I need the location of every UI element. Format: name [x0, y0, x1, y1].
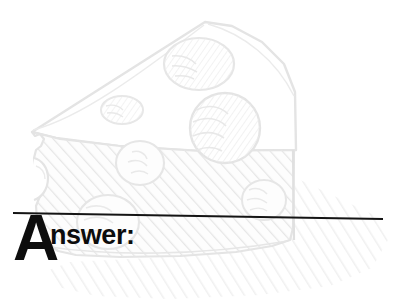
cheese-hole [164, 38, 234, 90]
cheese-hole [116, 141, 164, 185]
cheese-hole [190, 93, 260, 163]
cheese-top-face [32, 22, 296, 151]
answer-page: A nswer: [0, 0, 402, 301]
answer-heading: A nswer: [13, 210, 243, 270]
cheese-hole [34, 158, 48, 200]
cheese-hole [101, 96, 143, 124]
answer-label-text: nswer: [50, 220, 135, 250]
cheese-hole [242, 180, 286, 220]
